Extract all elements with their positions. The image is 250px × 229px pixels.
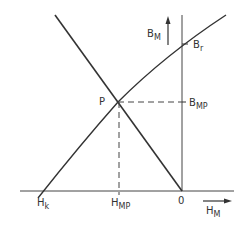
- b-operating-label: BMP: [189, 98, 208, 111]
- point-p-label: P: [99, 97, 105, 107]
- h-axis-arrow-icon: [203, 199, 232, 204]
- remanence-label: Br: [193, 40, 203, 53]
- b-axis-label: BM: [147, 29, 161, 42]
- h-operating-label: HMP: [111, 198, 130, 211]
- origin-label: 0: [178, 196, 184, 206]
- h-axis-label: HM: [206, 206, 220, 219]
- coercivity-label: Hk: [37, 198, 49, 211]
- diagram-canvas: [0, 0, 250, 229]
- b-axis-arrow-icon: [166, 16, 171, 45]
